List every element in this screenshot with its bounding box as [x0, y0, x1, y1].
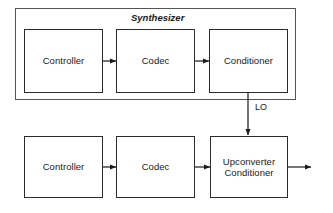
edge-label-lo-feed: LO [255, 102, 267, 112]
connector-layer [0, 0, 333, 213]
block-diagram-canvas: Synthesizer ControllerCodecConditionerCo… [0, 0, 333, 213]
